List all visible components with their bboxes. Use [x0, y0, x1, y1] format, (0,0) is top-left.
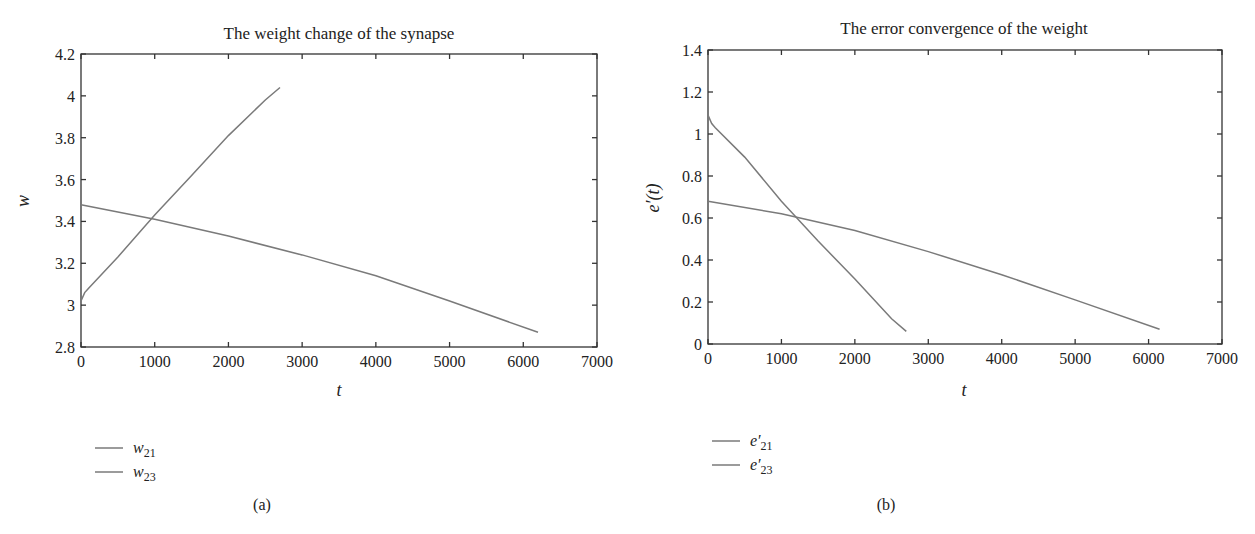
figure-canvas: The weight change of the synapse 2.833.2… — [0, 0, 1255, 534]
x-tick-label: 7000 — [581, 353, 613, 370]
y-tick-label: 0.8 — [682, 168, 702, 185]
y-axis-label: w — [13, 195, 33, 207]
y-tick-label: 0.4 — [682, 252, 702, 269]
x-tick-label: 1000 — [765, 350, 797, 367]
chart-title: The error convergence of the weight — [840, 19, 1088, 38]
x-tick-label: 6000 — [507, 353, 539, 370]
x-axis-label: t — [961, 380, 967, 400]
legend-label: e′21 — [750, 432, 773, 453]
series-line-23 — [81, 205, 538, 333]
y-tick-label: 3.8 — [55, 130, 75, 147]
y-tick-label: 1.2 — [682, 84, 702, 101]
x-tick-label: 6000 — [1133, 350, 1165, 367]
series-lines — [708, 115, 1160, 331]
legend: w21w23 — [95, 439, 156, 484]
y-axis: 2.833.23.43.63.844.2 — [55, 46, 597, 356]
y-tick-label: 3.4 — [55, 213, 75, 230]
series-line-21 — [81, 88, 280, 302]
x-tick-label: 7000 — [1206, 350, 1238, 367]
x-tick-label: 4000 — [986, 350, 1018, 367]
y-tick-label: 4.2 — [55, 46, 75, 63]
y-axis: 00.20.40.60.811.21.4 — [682, 42, 1222, 353]
y-tick-label: 1 — [694, 126, 702, 143]
y-tick-label: 1.4 — [682, 42, 702, 59]
x-tick-label: 2000 — [839, 350, 871, 367]
x-tick-label: 5000 — [434, 353, 466, 370]
chart-panel-b: The error convergence of the weight 00.2… — [643, 19, 1238, 514]
y-tick-label: 4 — [67, 88, 75, 105]
x-tick-label: 3000 — [912, 350, 944, 367]
x-tick-label: 5000 — [1059, 350, 1091, 367]
y-tick-label: 0 — [694, 336, 702, 353]
y-axis-label: e′(t) — [643, 184, 664, 213]
chart-panel-a: The weight change of the synapse 2.833.2… — [13, 24, 613, 514]
plot-area — [81, 54, 597, 347]
x-tick-label: 3000 — [286, 353, 318, 370]
y-tick-label: 3.6 — [55, 172, 75, 189]
x-tick-label: 1000 — [139, 353, 171, 370]
x-axis-label: t — [336, 380, 342, 400]
x-axis: 01000200030004000500060007000 — [704, 50, 1238, 367]
panel-caption: (b) — [877, 496, 896, 514]
legend-label: w23 — [133, 463, 156, 484]
y-tick-label: 3 — [67, 297, 75, 314]
plot-area — [708, 50, 1222, 344]
x-tick-label: 2000 — [212, 353, 244, 370]
chart-title: The weight change of the synapse — [224, 24, 455, 43]
series-lines — [81, 88, 538, 333]
legend: e′21e′23 — [712, 432, 773, 477]
legend-label: w21 — [133, 439, 156, 460]
x-tick-label: 0 — [704, 350, 712, 367]
series-line-21 — [708, 115, 906, 331]
legend-label: e′23 — [750, 456, 773, 477]
y-tick-label: 3.2 — [55, 255, 75, 272]
y-tick-label: 0.6 — [682, 210, 702, 227]
y-tick-label: 0.2 — [682, 294, 702, 311]
x-tick-label: 0 — [77, 353, 85, 370]
series-line-23 — [708, 201, 1160, 329]
panel-caption: (a) — [253, 496, 271, 514]
x-tick-label: 4000 — [360, 353, 392, 370]
y-tick-label: 2.8 — [55, 339, 75, 356]
